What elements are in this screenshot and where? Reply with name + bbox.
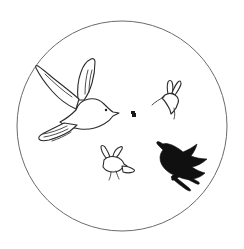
small-bird-figure <box>101 146 135 181</box>
dove-figure <box>36 59 119 141</box>
birds-illustration-svg <box>0 0 244 249</box>
hummingbird-tail <box>174 108 175 119</box>
hummingbird-beak <box>152 97 164 105</box>
hummingbird-figure <box>152 81 181 120</box>
distant-speck-figure <box>131 111 136 117</box>
hummingbird-body <box>162 94 178 115</box>
dove-lower-wing <box>36 66 79 109</box>
dove-eye <box>105 109 107 111</box>
illustration-canvas: Birds in Flight Circular vignette contai… <box>0 0 244 249</box>
circle-frame <box>17 21 227 231</box>
swallow-figure <box>157 142 207 191</box>
distant-speck <box>131 111 136 117</box>
small-bird-wing-left <box>101 146 110 159</box>
hummingbird-wing-right <box>172 81 181 95</box>
small-bird-leg-1 <box>109 172 111 180</box>
small-bird-leg-2 <box>116 171 119 179</box>
small-bird-tail <box>122 166 135 173</box>
